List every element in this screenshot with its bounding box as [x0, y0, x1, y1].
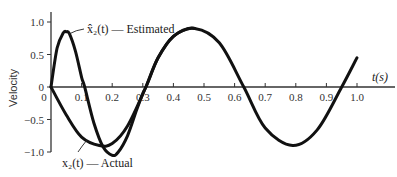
x-tick-label: 0.5: [197, 91, 211, 103]
x-tick-label: 0.7: [258, 91, 272, 103]
x-tick-label: 0.8: [289, 91, 303, 103]
estimated-leader-line: [69, 29, 84, 34]
actual-label: x₂(t) — Actual: [62, 156, 134, 170]
y-tick-label: −1.0: [24, 146, 44, 158]
y-ticks: 1.00.50−0.5−1.0: [24, 16, 51, 158]
y-tick-label: −0.5: [24, 114, 44, 126]
x-origin-label: 0: [41, 91, 47, 103]
actual-leader-line: [78, 140, 87, 152]
estimated-label: x̂₂(t) — Estimated: [87, 22, 175, 36]
x-tick-label: 0.2: [105, 91, 119, 103]
x-ticks: 0.10.20.30.40.50.60.70.80.91.0: [51, 83, 364, 103]
y-tick-label: 1.0: [30, 16, 44, 28]
x-tick-label: 0.9: [320, 91, 334, 103]
y-tick-label: 0.5: [30, 49, 44, 61]
x-tick-label: 1.0: [350, 91, 364, 103]
velocity-chart: 1.00.50−0.5−1.0 0.10.20.30.40.50.60.70.8…: [0, 0, 397, 177]
x-tick-label: 0.6: [228, 91, 242, 103]
y-axis-label: Velocity: [7, 69, 19, 107]
x-axis-label: t(s): [372, 70, 388, 84]
x-tick-label: 0.4: [167, 91, 181, 103]
